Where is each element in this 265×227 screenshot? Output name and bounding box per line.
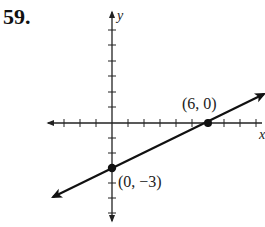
x-axis: x bbox=[48, 119, 265, 142]
coordinate-graph: x y (6, 0) (0, −3) bbox=[0, 0, 265, 227]
x-axis-label: x bbox=[258, 127, 265, 142]
point-6-0 bbox=[204, 119, 212, 127]
point-label-6-0: (6, 0) bbox=[182, 95, 217, 113]
point-0-neg3 bbox=[108, 164, 116, 172]
point-label-0-neg3: (0, −3) bbox=[118, 173, 162, 191]
y-axis-label: y bbox=[115, 8, 124, 23]
